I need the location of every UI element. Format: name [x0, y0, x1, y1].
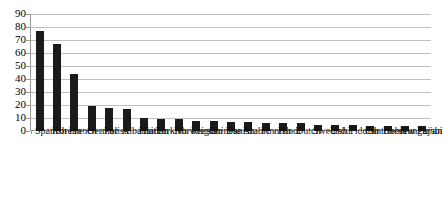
bar-slot [31, 14, 48, 131]
x-tick-label-slot: Hungarian [396, 136, 413, 201]
x-axis: SpanishKoreanFrenchGermanPolishAlbanianH… [31, 136, 431, 201]
y-tick-label: 80 [15, 21, 26, 32]
x-tick-label-slot: Korean [48, 136, 65, 201]
bar-slot [327, 14, 344, 131]
bar-slot [379, 14, 396, 131]
y-tick-mark [26, 53, 30, 54]
bar-slot [240, 14, 257, 131]
y-axis: 9080706050403020100 [0, 0, 30, 136]
x-tick-label-slot: German [83, 136, 100, 201]
bars-layer [31, 14, 431, 131]
x-tick-label-slot: Spanish [31, 136, 48, 201]
bar-slot [274, 14, 291, 131]
bar [53, 44, 61, 131]
bar-slot [344, 14, 361, 131]
bar-slot [414, 14, 431, 131]
y-tick-mark [26, 79, 30, 80]
y-tick-label: 70 [15, 34, 26, 45]
y-tick-mark [26, 92, 30, 93]
x-tick-mark [48, 131, 49, 134]
y-tick-label: 20 [15, 99, 26, 110]
y-tick-label: 50 [15, 60, 26, 71]
x-tick-mark [361, 131, 362, 134]
bar-slot [170, 14, 187, 131]
x-tick-mark [205, 131, 206, 134]
y-tick-mark [26, 118, 30, 119]
x-tick-label-slot: French [66, 136, 83, 201]
x-tick-mark [170, 131, 171, 134]
x-tick-label-slot: Albanian [118, 136, 135, 201]
y-tick-label: 90 [15, 8, 26, 19]
x-tick-mark [292, 131, 293, 134]
bar [70, 74, 78, 131]
x-tick-mark [31, 131, 32, 134]
x-tick-mark [188, 131, 189, 134]
bar-slot [66, 14, 83, 131]
bar [36, 31, 44, 131]
x-tick-label-slot: Swedish [309, 136, 326, 201]
x-tick-mark [344, 131, 345, 134]
y-tick-mark [26, 105, 30, 106]
bar-slot [205, 14, 222, 131]
x-tick-mark [257, 131, 258, 134]
bar-slot [396, 14, 413, 131]
x-tick-mark [66, 131, 67, 134]
x-tick-mark [274, 131, 275, 134]
bar-slot [361, 14, 378, 131]
bar-slot [118, 14, 135, 131]
x-tick-mark [379, 131, 380, 134]
y-tick-label: 30 [15, 86, 26, 97]
y-tick-label: 10 [15, 112, 26, 123]
bar-slot [83, 14, 100, 131]
y-tick-mark [26, 14, 30, 15]
bar-slot [101, 14, 118, 131]
x-tick-label-slot: Finnish [257, 136, 274, 201]
x-tick-label-slot: Hindi [274, 136, 291, 201]
x-tick-label-slot: Danish [222, 136, 239, 201]
bar-slot [188, 14, 205, 131]
x-tick-mark [240, 131, 241, 134]
x-tick-label-slot: Urdu [327, 136, 344, 201]
x-tick-mark [135, 131, 136, 134]
x-tick-label-slot: Hebrew [379, 136, 396, 201]
plot-area [31, 14, 431, 131]
y-tick-label: 60 [15, 47, 26, 58]
x-tick-label-slot: Haitian [135, 136, 152, 201]
x-tick-label-slot: Norweigia [170, 136, 187, 201]
y-tick-mark [26, 40, 30, 41]
x-tick-mark [222, 131, 223, 134]
x-tick-label-slot: Russian [188, 136, 205, 201]
x-tick-mark [396, 131, 397, 134]
x-tick-label-slot: Dutch [292, 136, 309, 201]
bar-slot [309, 14, 326, 131]
x-tick-mark [101, 131, 102, 134]
bar-slot [257, 14, 274, 131]
y-tick-mark [26, 27, 30, 28]
x-tick-mark [309, 131, 310, 134]
x-tick-mark [153, 131, 154, 134]
x-tick-label-slot: Yiddish [344, 136, 361, 201]
bar-slot [48, 14, 65, 131]
bar-slot [292, 14, 309, 131]
x-tick-mark [83, 131, 84, 134]
x-tick-mark [431, 131, 432, 134]
x-tick-mark [327, 131, 328, 134]
bar-slot [222, 14, 239, 131]
x-tick-mark [118, 131, 119, 134]
x-tick-label-slot: Cantonese [361, 136, 378, 201]
y-tick-label: 40 [15, 73, 26, 84]
x-tick-mark [414, 131, 415, 134]
x-tick-label-slot: Pujabi [414, 136, 431, 201]
x-tick-label-slot: Turkish [153, 136, 170, 201]
x-tick-label-slot: Arabic [240, 136, 257, 201]
bar-slot [135, 14, 152, 131]
y-tick-mark [26, 66, 30, 67]
y-tick-mark [26, 131, 30, 132]
bar-slot [153, 14, 170, 131]
x-tick-label-slot: Polish [101, 136, 118, 201]
x-tick-label-slot: Chinese [205, 136, 222, 201]
